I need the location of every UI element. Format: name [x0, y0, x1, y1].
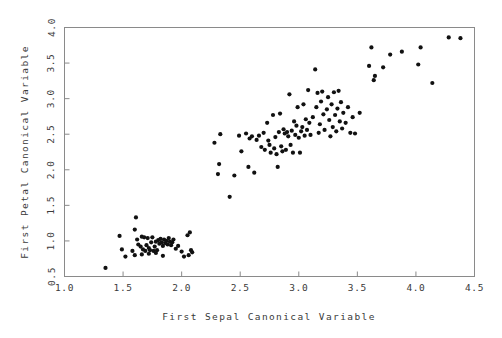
y-tick-label: 0.5	[46, 267, 57, 286]
data-point	[430, 81, 434, 85]
data-point	[244, 131, 248, 135]
data-point	[331, 125, 335, 129]
data-point	[372, 78, 376, 82]
data-point	[328, 134, 332, 138]
data-point	[367, 64, 371, 68]
data-point	[154, 251, 158, 255]
data-point	[353, 131, 357, 135]
data-point	[285, 130, 289, 134]
y-tick-label: 3.0	[46, 89, 57, 108]
data-point	[133, 253, 137, 257]
data-point	[278, 111, 282, 115]
data-point	[182, 254, 186, 258]
data-point	[293, 133, 297, 137]
y-tick-label: 2.5	[46, 125, 57, 144]
data-point	[255, 138, 259, 142]
data-point	[381, 65, 385, 69]
data-point	[246, 165, 250, 169]
data-point	[326, 95, 330, 99]
data-point	[358, 111, 362, 115]
data-point	[271, 113, 275, 117]
data-point	[140, 252, 144, 256]
data-point	[276, 165, 280, 169]
data-point	[416, 62, 420, 66]
data-point	[292, 119, 296, 123]
data-point	[447, 35, 451, 39]
x-tick-label: 4.0	[406, 282, 425, 293]
data-point	[263, 148, 267, 152]
data-point	[130, 249, 134, 253]
x-tick-label: 4.5	[465, 282, 484, 293]
data-point	[117, 234, 121, 238]
data-point	[147, 252, 151, 256]
data-point	[291, 151, 295, 155]
x-tick-label: 2.0	[172, 282, 191, 293]
data-point	[281, 127, 285, 131]
data-point	[252, 171, 256, 175]
data-point	[188, 230, 192, 234]
data-point	[329, 102, 333, 106]
data-point	[265, 121, 269, 125]
data-point	[120, 247, 124, 251]
data-point	[266, 139, 270, 143]
data-point	[180, 250, 184, 254]
x-tick-label: 2.5	[231, 282, 250, 293]
data-point	[373, 74, 377, 78]
data-point	[262, 131, 266, 135]
data-point	[287, 92, 291, 96]
data-point	[320, 89, 324, 93]
data-point	[146, 236, 150, 240]
data-point	[133, 227, 137, 231]
data-point	[346, 105, 350, 109]
data-point	[301, 102, 305, 106]
plot-background	[0, 0, 502, 338]
x-axis-title: First Sepal Canonical Variable	[162, 311, 376, 322]
data-point	[458, 36, 462, 40]
data-point	[369, 45, 373, 49]
data-point	[340, 126, 344, 130]
data-point	[339, 100, 343, 104]
data-point	[313, 67, 317, 71]
x-tick-label: 1.0	[55, 282, 74, 293]
data-point	[344, 121, 348, 125]
data-point	[327, 118, 331, 122]
data-point	[315, 91, 319, 95]
data-point	[314, 105, 318, 109]
data-point	[334, 129, 338, 133]
x-tick-label: 3.0	[289, 282, 308, 293]
data-point	[286, 134, 290, 138]
y-tick-label: 1.0	[46, 231, 57, 250]
data-point	[319, 99, 323, 103]
data-point	[216, 172, 220, 176]
data-point	[269, 151, 273, 155]
data-point	[239, 149, 243, 153]
y-tick-label: 2.0	[46, 160, 57, 179]
data-point	[148, 248, 152, 252]
data-point	[123, 254, 127, 258]
data-point	[294, 124, 298, 128]
data-point	[290, 129, 294, 133]
x-tick-label: 3.5	[348, 282, 367, 293]
data-point	[167, 236, 171, 240]
data-point	[305, 128, 309, 132]
data-point	[272, 146, 276, 150]
data-point	[257, 134, 261, 138]
y-tick-label: 3.5	[46, 54, 57, 73]
data-point	[150, 235, 154, 239]
data-point	[143, 249, 147, 253]
data-point	[300, 125, 304, 129]
data-point	[288, 143, 292, 147]
data-point	[322, 128, 326, 132]
y-tick-label: 1.5	[46, 196, 57, 215]
scatter-plot-figure: 1.01.52.02.53.03.54.04.5 0.51.01.52.02.5…	[0, 0, 502, 338]
data-point	[333, 113, 337, 117]
data-point	[332, 90, 336, 94]
data-point	[298, 151, 302, 155]
data-point	[176, 244, 180, 248]
plot-canvas: 1.01.52.02.53.03.54.04.5 0.51.01.52.02.5…	[0, 0, 502, 338]
data-point	[341, 111, 345, 115]
data-point	[273, 135, 277, 139]
data-point	[304, 117, 308, 121]
y-tick-label: 4.0	[46, 18, 57, 37]
data-point	[142, 235, 146, 239]
